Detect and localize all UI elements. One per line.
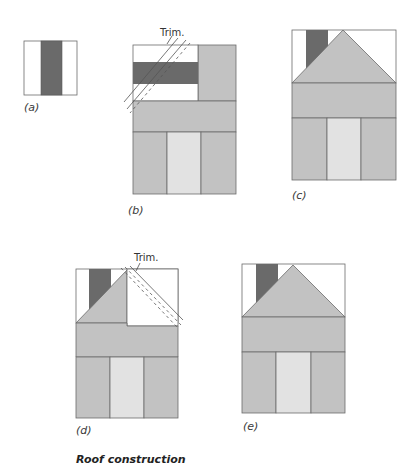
diagram-title: Roof construction (76, 453, 186, 466)
roof-construction-diagram: (a) Trim. (b) (c) (0, 0, 416, 467)
figure-c: (c) (292, 30, 396, 202)
figure-c-label: (c) (292, 189, 307, 202)
figure-b-upper-gray-block (198, 45, 236, 101)
figure-b-right-wall (201, 132, 236, 194)
figure-a: (a) (24, 41, 77, 114)
figure-b-door (167, 132, 201, 194)
figure-d-wall-band (76, 323, 178, 357)
figure-b-left-wall (133, 132, 167, 194)
figure-a-label: (a) (24, 101, 39, 114)
figure-a-chimney-strip (41, 41, 62, 95)
figure-e-left-wall (242, 352, 276, 413)
figure-b-label: (b) (128, 204, 144, 217)
figure-c-left-wall (292, 118, 327, 180)
figure-b-wall-band (133, 101, 236, 132)
figure-e-door (276, 352, 311, 413)
figure-e-label: (e) (243, 420, 258, 433)
figure-c-door (327, 118, 361, 180)
figure-d-door (110, 357, 144, 418)
figure-b-chimney-band (133, 62, 198, 84)
figure-e-right-wall (311, 352, 345, 413)
figure-b: Trim. (b) (124, 27, 236, 217)
figure-d-left-wall (76, 357, 110, 418)
figure-d: Trim. (d) (76, 252, 183, 437)
figure-d-label: (d) (76, 424, 92, 437)
figure-b-trim-annotation: Trim. (159, 27, 184, 38)
figure-d-trim-annotation: Trim. (133, 252, 158, 263)
figure-c-right-wall (361, 118, 396, 180)
figure-e: (e) (242, 264, 345, 433)
figure-e-wall-band (242, 317, 345, 352)
figure-c-wall-band (292, 83, 396, 118)
figure-d-right-wall (144, 357, 178, 418)
